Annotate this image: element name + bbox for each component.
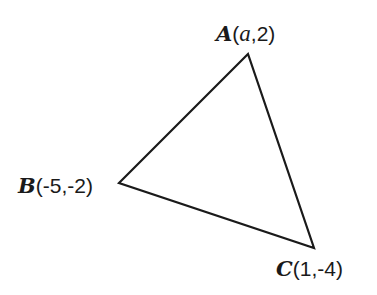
vertex-coords-c: (1,-4) (293, 257, 343, 280)
vertex-coords-b: (-5,-2) (36, 174, 93, 197)
vertex-label-b: B(-5,-2) (18, 175, 93, 196)
vertex-label-c: C(1,-4) (276, 258, 343, 279)
vertex-name-b: B (18, 173, 36, 198)
variable-a: a (239, 21, 251, 46)
triangle-abc (119, 54, 314, 248)
vertex-name-c: C (276, 256, 293, 281)
triangle-figure (0, 0, 377, 295)
vertex-name-a: A (216, 21, 232, 46)
vertex-label-a: A(a,2) (216, 22, 275, 45)
